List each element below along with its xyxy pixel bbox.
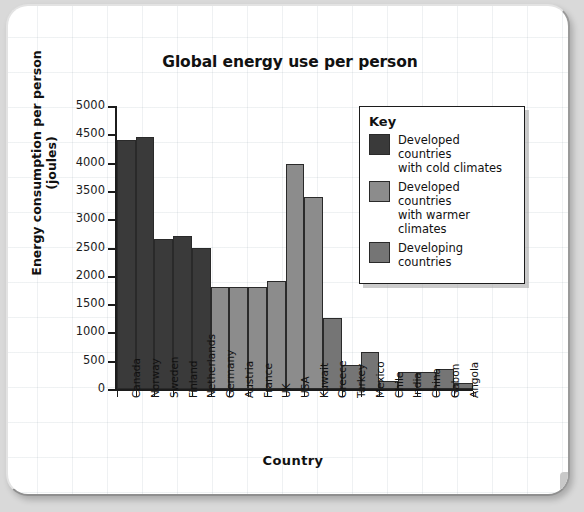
- page-corner-shadow: [560, 472, 570, 496]
- y-tick-label: 1500: [76, 296, 105, 310]
- x-tick-mark: [304, 391, 305, 397]
- chart-title: Global energy use per person: [8, 53, 570, 71]
- legend-swatch: [369, 134, 390, 155]
- x-tick-mark: [211, 391, 212, 397]
- x-tick-mark: [173, 391, 174, 397]
- y-tick-label: 3500: [76, 183, 105, 197]
- y-tick-mark: [108, 276, 115, 278]
- bar-usa: [286, 164, 305, 389]
- legend-entries: Developed countrieswith cold climatesDev…: [369, 133, 516, 269]
- x-tick-mark: [454, 391, 455, 397]
- y-tick-label: 1000: [76, 324, 105, 338]
- x-tick-mark: [323, 391, 324, 397]
- worksheet-page: Global energy use per person Energy cons…: [6, 4, 570, 496]
- legend-entry: Developed countrieswith warmer climates: [369, 180, 516, 236]
- x-tick-mark: [192, 391, 193, 397]
- y-tick-mark: [108, 361, 115, 363]
- legend-label: Developing countries: [398, 241, 516, 269]
- bar-canada: [117, 140, 136, 389]
- y-tick-label: 4000: [76, 155, 105, 169]
- y-tick-label: 3000: [76, 211, 105, 225]
- legend-entry: Developed countrieswith cold climates: [369, 133, 516, 175]
- x-tick-mark: [398, 391, 399, 397]
- x-tick-label: Netherlands: [205, 334, 217, 398]
- y-tick-mark: [108, 389, 115, 391]
- y-tick-mark: [108, 219, 115, 221]
- x-tick-mark: [154, 391, 155, 397]
- y-tick-mark: [108, 106, 115, 108]
- x-tick-mark: [473, 391, 474, 397]
- legend-swatch: [369, 181, 390, 202]
- legend-title: Key: [369, 114, 516, 129]
- y-tick-mark: [108, 163, 115, 165]
- x-tick-mark: [286, 391, 287, 397]
- y-axis-label: Energy consumption per person (joules): [29, 43, 59, 283]
- x-tick-mark: [267, 391, 268, 397]
- x-tick-mark: [361, 391, 362, 397]
- legend-label: Developed countrieswith cold climates: [398, 133, 516, 175]
- x-axis-label: Country: [108, 453, 478, 468]
- legend-entry: Developing countries: [369, 241, 516, 269]
- legend-label: Developed countrieswith warmer climates: [398, 180, 516, 236]
- x-tick-mark: [117, 391, 118, 397]
- y-tick-mark: [108, 304, 115, 306]
- x-tick-mark: [342, 391, 343, 397]
- x-tick-mark: [417, 391, 418, 397]
- y-tick-label: 5000: [76, 98, 105, 112]
- y-tick-mark: [108, 248, 115, 250]
- y-tick-label: 500: [83, 353, 105, 367]
- legend-box: Key Developed countrieswith cold climate…: [359, 106, 525, 284]
- x-tick-mark: [136, 391, 137, 397]
- y-tick-mark: [108, 332, 115, 334]
- y-tick-mark: [108, 191, 115, 193]
- x-tick-mark: [248, 391, 249, 397]
- bar-kuwait: [304, 197, 323, 389]
- x-tick-mark: [436, 391, 437, 397]
- bar-norway: [136, 137, 155, 389]
- y-tick-label: 2000: [76, 268, 105, 282]
- x-tick-mark: [229, 391, 230, 397]
- x-tick-mark: [379, 391, 380, 397]
- y-tick-label: 2500: [76, 240, 105, 254]
- legend-swatch: [369, 242, 390, 263]
- y-tick-mark: [108, 134, 115, 136]
- y-tick-label: 0: [98, 381, 105, 395]
- y-tick-label: 4500: [76, 126, 105, 140]
